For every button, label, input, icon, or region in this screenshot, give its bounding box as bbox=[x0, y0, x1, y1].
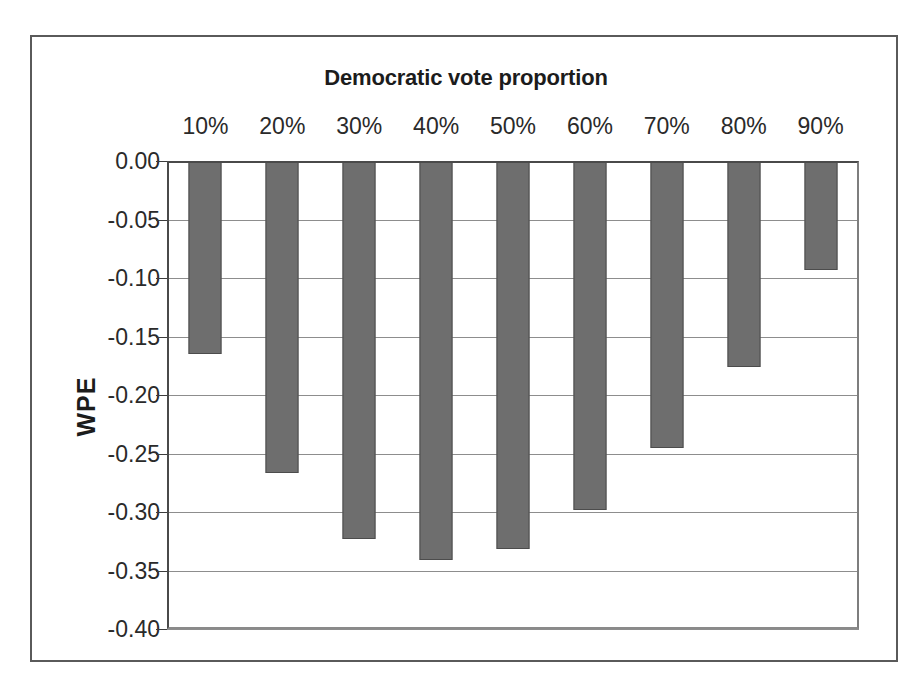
y-tick-label: -0.35 bbox=[72, 556, 160, 586]
y-tick-label: -0.05 bbox=[72, 205, 160, 235]
figure-frame: Democratic vote proportion 10%20%30%40%5… bbox=[30, 35, 898, 662]
bar-slot bbox=[167, 161, 244, 629]
bar-slot bbox=[782, 161, 859, 629]
bar[interactable] bbox=[343, 161, 376, 539]
bar[interactable] bbox=[497, 161, 530, 549]
bar-slot bbox=[705, 161, 782, 629]
x-tick-label: 60% bbox=[551, 110, 628, 142]
y-axis-tick-mark bbox=[156, 220, 167, 221]
chart-title: Democratic vote proportion bbox=[32, 65, 900, 91]
x-tick-label: 80% bbox=[705, 110, 782, 142]
x-tick-label: 10% bbox=[167, 110, 244, 142]
bar[interactable] bbox=[727, 161, 760, 367]
y-tick-label: 0.00 bbox=[72, 146, 160, 176]
bar-slot bbox=[628, 161, 705, 629]
y-tick-label: -0.10 bbox=[72, 263, 160, 293]
x-tick-label: 30% bbox=[321, 110, 398, 142]
bar-slot bbox=[321, 161, 398, 629]
bar-slot bbox=[244, 161, 321, 629]
x-tick-label: 90% bbox=[782, 110, 859, 142]
y-axis-tick-mark bbox=[156, 629, 167, 630]
y-tick-label: -0.30 bbox=[72, 497, 160, 527]
y-tick-label: -0.20 bbox=[72, 380, 160, 410]
bar[interactable] bbox=[573, 161, 606, 510]
y-axis-tick-mark bbox=[156, 278, 167, 279]
y-axis-tick-mark bbox=[156, 454, 167, 455]
x-tick-label: 70% bbox=[628, 110, 705, 142]
y-tick-label: -0.25 bbox=[72, 439, 160, 469]
y-tick-label: -0.40 bbox=[72, 614, 160, 644]
y-axis-tick-mark bbox=[156, 571, 167, 572]
bar-slot bbox=[551, 161, 628, 629]
bar-slot bbox=[475, 161, 552, 629]
bar-series bbox=[167, 161, 859, 629]
y-axis-tick-mark bbox=[156, 337, 167, 338]
bar[interactable] bbox=[189, 161, 222, 354]
bar[interactable] bbox=[650, 161, 683, 448]
x-tick-label: 40% bbox=[398, 110, 475, 142]
y-axis-tick-labels: 0.00-0.05-0.10-0.15-0.20-0.25-0.30-0.35-… bbox=[72, 161, 160, 629]
bar[interactable] bbox=[420, 161, 453, 560]
y-axis-tick-mark bbox=[156, 161, 167, 162]
bar[interactable] bbox=[266, 161, 299, 473]
x-tick-label: 20% bbox=[244, 110, 321, 142]
gridline bbox=[167, 629, 859, 630]
x-tick-label: 50% bbox=[475, 110, 552, 142]
x-axis-tick-labels: 10%20%30%40%50%60%70%80%90% bbox=[167, 110, 859, 142]
y-axis-tick-mark bbox=[156, 395, 167, 396]
y-axis-tick-mark bbox=[156, 512, 167, 513]
y-tick-label: -0.15 bbox=[72, 322, 160, 352]
bar[interactable] bbox=[804, 161, 837, 270]
plot-area bbox=[167, 161, 859, 629]
bar-slot bbox=[398, 161, 475, 629]
